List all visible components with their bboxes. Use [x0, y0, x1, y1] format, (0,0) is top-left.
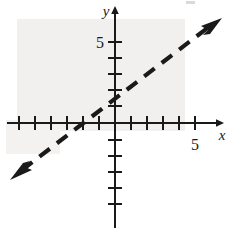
y-tick-label-5: 5 [96, 34, 104, 51]
y-axis-label: y [101, 3, 110, 19]
graph-figure: x y 5 5 [0, 0, 237, 236]
x-axis-arrowhead [216, 119, 224, 127]
x-axis-label: x [218, 127, 226, 143]
scan-artifact-mark [186, 1, 195, 4]
x-tick-label-5: 5 [191, 136, 199, 153]
y-axis-arrowhead [111, 6, 119, 14]
coordinate-plane-svg: x y 5 5 [0, 0, 237, 236]
